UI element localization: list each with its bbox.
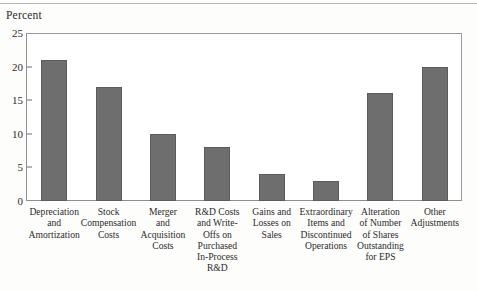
x-axis-category-label: Gains andLosses onSales	[241, 206, 303, 240]
x-axis-category-label: StockCompensationCosts	[77, 206, 139, 240]
bar	[150, 134, 176, 201]
x-axis-category-label-line: Amortization	[23, 229, 85, 240]
y-axis-tick-label: 10	[1, 128, 23, 140]
x-axis-category-label: ExtraordinaryItems andDiscontinuedOperat…	[295, 206, 357, 251]
bar	[313, 181, 339, 201]
y-axis-tick-label: 5	[1, 161, 23, 173]
x-axis-category-label: OtherAdjustments	[404, 206, 466, 229]
x-axis-category-label-line: Depreciation	[23, 206, 85, 217]
x-axis-category-label-line: Gains and	[241, 206, 303, 217]
y-axis-tick-labels: 0510152025	[0, 0, 23, 291]
x-axis-category-label-line: Losses on	[241, 217, 303, 228]
plot-area	[27, 33, 462, 201]
x-axis-category-label-line: Costs	[132, 240, 194, 251]
x-axis-category-label-line: Acquisition	[132, 229, 194, 240]
x-axis-category-label-line: Extraordinary	[295, 206, 357, 217]
x-axis-category-label-line: Stock	[77, 206, 139, 217]
x-axis-category-label-line: for EPS	[349, 251, 411, 262]
y-axis-tick-label: 20	[1, 61, 23, 73]
x-axis-category-label-line: Alteration	[349, 206, 411, 217]
x-axis-category-label-line: In-Process	[186, 251, 248, 262]
x-axis-category-label-line: and	[23, 217, 85, 228]
bar	[96, 87, 122, 201]
x-axis-category-labels: DepreciationandAmortizationStockCompensa…	[27, 206, 462, 291]
x-axis-category-label-line: Adjustments	[404, 217, 466, 228]
x-axis-category-label: MergerandAcquisitionCosts	[132, 206, 194, 251]
x-axis-category-label: Alterationof Numberof SharesOutstandingf…	[349, 206, 411, 262]
bar	[259, 174, 285, 201]
x-axis-category-label-line: Discontinued	[295, 229, 357, 240]
top-divider-rule	[0, 3, 477, 4]
x-axis-category-label-line: Merger	[132, 206, 194, 217]
bar	[422, 67, 448, 201]
x-axis-category-label-line: R&D	[186, 262, 248, 273]
x-axis-category-label-line: Other	[404, 206, 466, 217]
x-axis-category-label-line: Offs on	[186, 229, 248, 240]
x-axis-category-label-line: R&D Costs	[186, 206, 248, 217]
x-axis-category-label-line: Operations	[295, 240, 357, 251]
x-axis-category-label-line: and	[132, 217, 194, 228]
x-axis-category-label-line: of Shares	[349, 229, 411, 240]
bar	[41, 60, 67, 201]
bar	[204, 147, 230, 201]
x-axis-category-label: R&D Costsand Write-Offs onPurchasedIn-Pr…	[186, 206, 248, 274]
y-axis-tick-label: 15	[1, 94, 23, 106]
x-axis-category-label: DepreciationandAmortization	[23, 206, 85, 240]
y-axis-tick-label: 0	[1, 195, 23, 207]
x-axis-category-label-line: Items and	[295, 217, 357, 228]
chart-page: Percent 0510152025 DepreciationandAmorti…	[0, 0, 477, 291]
x-axis-category-label-line: Purchased	[186, 240, 248, 251]
x-axis-category-label-line: and Write-	[186, 217, 248, 228]
x-axis-category-label-line: Costs	[77, 229, 139, 240]
y-axis-tick-label: 25	[1, 27, 23, 39]
x-axis-category-label-line: Compensation	[77, 217, 139, 228]
x-axis-category-label-line: Sales	[241, 229, 303, 240]
bar	[367, 93, 393, 201]
x-axis-category-label-line: Outstanding	[349, 240, 411, 251]
x-axis-category-label-line: of Number	[349, 217, 411, 228]
